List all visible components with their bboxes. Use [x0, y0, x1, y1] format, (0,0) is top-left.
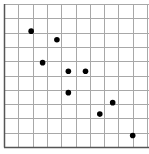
data-point — [28, 28, 34, 34]
data-point — [83, 68, 89, 74]
data-point — [54, 37, 60, 43]
data-point — [97, 111, 103, 117]
grid-lines — [4, 4, 149, 147]
data-point — [66, 68, 72, 74]
data-point — [66, 90, 72, 96]
data-point — [110, 100, 116, 106]
data-points — [28, 28, 135, 138]
data-point — [130, 133, 136, 139]
scatter-plot — [0, 0, 149, 154]
data-point — [40, 60, 46, 66]
